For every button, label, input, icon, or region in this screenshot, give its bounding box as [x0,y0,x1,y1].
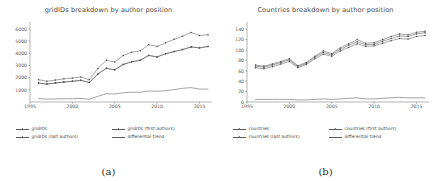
subcaption-a: (a) [0,166,217,177]
svg-text:1995: 1995 [241,104,253,109]
legend-label: countries (first authors) [345,126,397,132]
legend-b: countries countries (first authors) coun… [233,126,423,140]
svg-text:3000: 3000 [15,63,27,68]
legend-label: differential trend [345,134,382,140]
legend-label: countries [249,126,269,132]
svg-text:2000: 2000 [15,75,27,80]
svg-text:2005: 2005 [109,104,121,109]
legend-marker-icon [233,135,246,140]
line-chart-a: 1000200030004000500060001995200020052010… [0,18,217,118]
svg-text:100: 100 [235,48,244,53]
svg-text:6000: 6000 [15,27,27,32]
line-chart-b: 02040608010012014019952000200520102015 [217,18,434,118]
svg-text:2005: 2005 [326,104,338,109]
legend-item-countries-last-authors: countries (last authors) [233,134,327,140]
svg-text:1000: 1000 [15,88,27,93]
legend-label: gridIDs (last authors) [32,134,78,140]
plot-area-a: 1000200030004000500060001995200020052010… [0,18,217,118]
legend-item-gridids-last-authors: gridIDs (last authors) [16,134,110,140]
legend-label: gridIDs [32,126,48,132]
svg-text:2000: 2000 [284,104,296,109]
svg-text:2000: 2000 [67,104,79,109]
legend-marker-icon [329,127,342,132]
legend-marker-icon [112,127,125,132]
legend-label: gridIDs (first authors) [128,126,175,132]
legend-item-gridids: gridIDs [16,126,110,132]
svg-text:40: 40 [238,79,244,84]
svg-text:1995: 1995 [24,104,36,109]
legend-marker-icon [16,135,29,140]
legend-item-countries-first-authors: countries (first authors) [329,126,423,132]
legend-item-differential-trend: differential trend [329,134,423,140]
figure-row: gridIDs breakdown by author position 100… [0,0,434,181]
legend-label: differential trend [128,134,165,140]
svg-text:140: 140 [235,27,244,32]
chart-title-b: Countries breakdown by author position [217,6,434,14]
legend-line-icon [329,135,342,140]
plot-area-b: 02040608010012014019952000200520102015 [217,18,434,118]
legend-item-gridids-first-authors: gridIDs (first authors) [112,126,206,132]
legend-line-icon [112,135,125,140]
legend-marker-icon [16,127,29,132]
svg-text:20: 20 [238,89,244,94]
chart-title-a: gridIDs breakdown by author position [0,6,217,14]
svg-text:2010: 2010 [151,104,163,109]
legend-marker-icon [233,127,246,132]
svg-text:2010: 2010 [368,104,380,109]
svg-text:80: 80 [238,58,244,63]
legend-item-countries: countries [233,126,327,132]
chart-panel-a: gridIDs breakdown by author position 100… [0,0,217,181]
subcaption-b: (b) [217,166,434,177]
svg-text:4000: 4000 [15,51,27,56]
legend-item-differential-trend: differential trend [112,134,206,140]
svg-text:60: 60 [238,69,244,74]
legend-a: gridIDs gridIDs (first authors) gridIDs … [16,126,206,140]
svg-text:2015: 2015 [194,104,206,109]
svg-text:2015: 2015 [411,104,423,109]
svg-text:120: 120 [235,37,244,42]
svg-text:5000: 5000 [15,39,27,44]
legend-label: countries (last authors) [249,134,300,140]
chart-panel-b: Countries breakdown by author position 0… [217,0,434,181]
